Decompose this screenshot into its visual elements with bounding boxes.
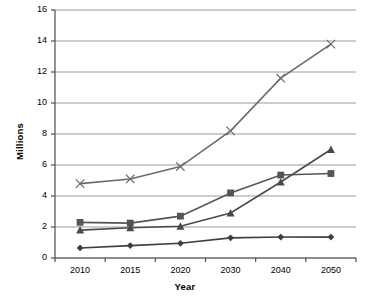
y-tick-label: 14 [25, 36, 47, 45]
data-point-triangle [227, 209, 235, 216]
x-tick-label: 2015 [108, 266, 152, 275]
data-point-square [277, 172, 284, 179]
data-point-triangle [327, 146, 335, 153]
data-point-diamond [328, 234, 335, 241]
data-point-square [77, 219, 84, 226]
data-point-square [227, 190, 234, 197]
y-tick-label: 4 [25, 191, 47, 200]
data-point-diamond [277, 234, 284, 241]
plot-area [0, 0, 373, 298]
data-point-triangle [277, 178, 285, 185]
y-tick-label: 10 [25, 98, 47, 107]
series-line-triangle [80, 150, 331, 231]
series-line-diamond [80, 237, 331, 248]
y-tick-label: 12 [25, 67, 47, 76]
y-tick-label: 2 [25, 222, 47, 231]
y-tick-label: 0 [25, 253, 47, 262]
chart-container: Millions Year 0246810121416 201020152020… [0, 0, 373, 298]
data-point-diamond [127, 242, 134, 249]
data-point-square [328, 170, 335, 177]
data-point-diamond [77, 245, 84, 252]
data-point-square [177, 213, 184, 220]
x-tick-label: 2010 [58, 266, 102, 275]
data-point-diamond [177, 240, 184, 247]
y-tick-label: 6 [25, 160, 47, 169]
x-tick-label: 2050 [309, 266, 353, 275]
series-line-x [80, 44, 331, 184]
data-point-diamond [227, 234, 234, 241]
y-tick-label: 16 [25, 5, 47, 14]
x-tick-label: 2030 [209, 266, 253, 275]
series-line-square [80, 174, 331, 224]
x-tick-label: 2020 [158, 266, 202, 275]
x-tick-label: 2040 [259, 266, 303, 275]
y-tick-label: 8 [25, 129, 47, 138]
